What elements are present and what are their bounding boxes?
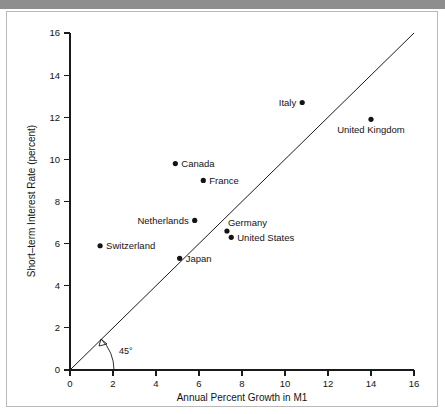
data-point: Canada: [173, 158, 216, 169]
data-point-dot: [229, 235, 234, 240]
data-point-label: Germany: [228, 217, 267, 228]
data-point-label: France: [209, 175, 239, 186]
data-point-dot: [192, 218, 197, 223]
data-point: Switzerland: [98, 240, 156, 251]
angle-label: 45°: [119, 346, 133, 356]
data-point-label: Italy: [279, 97, 297, 108]
x-tick-label: 10: [280, 378, 291, 389]
data-point-label: United States: [237, 232, 294, 243]
forty-five-degree-line: [70, 33, 414, 370]
angle-annotation: 45°: [99, 339, 133, 370]
y-tick-label: 16: [49, 27, 60, 38]
data-point-dot: [201, 178, 206, 183]
data-points: ItalyUnited KingdomCanadaFranceNetherlan…: [98, 97, 405, 264]
angle-arc: [101, 339, 114, 370]
data-point: Netherlands: [137, 215, 197, 226]
data-point-label: United Kingdom: [337, 124, 405, 135]
data-point-label: Japan: [186, 253, 212, 264]
x-tick-label: 8: [239, 378, 244, 389]
data-point-dot: [177, 256, 182, 261]
y-tick-label: 8: [55, 196, 60, 207]
y-tick-label: 4: [55, 280, 60, 291]
y-tick-label: 2: [55, 322, 60, 333]
y-tick-label: 14: [49, 70, 60, 81]
data-point: United Kingdom: [337, 117, 405, 136]
data-point-label: Netherlands: [137, 215, 188, 226]
x-tick-label: 6: [196, 378, 201, 389]
y-tick-label: 6: [55, 238, 60, 249]
x-tick-label: 0: [67, 378, 72, 389]
x-axis-ticks: 0246810121416: [67, 370, 419, 389]
data-point: United States: [229, 232, 295, 243]
scatter-chart: 0246810121416 0246810121416 45° ItalyUni…: [0, 9, 445, 414]
data-point: Italy: [279, 97, 305, 108]
data-point-label: Switzerland: [106, 240, 155, 251]
y-tick-label: 10: [49, 154, 60, 165]
y-tick-label: 12: [49, 112, 60, 123]
reference-line-45deg: [70, 33, 414, 370]
data-point-dot: [224, 228, 229, 233]
y-axis-ticks: 0246810121416: [49, 27, 70, 375]
x-tick-label: 2: [110, 378, 115, 389]
data-point-dot: [368, 117, 373, 122]
data-point: France: [201, 175, 239, 186]
y-tick-label: 0: [55, 364, 60, 375]
data-point-label: Canada: [181, 158, 215, 169]
y-axis-title: Short–term Interest Rate (percent): [26, 125, 37, 277]
x-tick-label: 4: [153, 378, 158, 389]
data-point-dot: [173, 161, 178, 166]
data-point: Japan: [177, 253, 211, 264]
data-point-dot: [300, 100, 305, 105]
x-axis-title: Annual Percent Growth in M1: [177, 392, 308, 403]
x-tick-label: 16: [409, 378, 420, 389]
top-decorative-band: [0, 0, 445, 9]
x-tick-label: 14: [366, 378, 377, 389]
data-point-dot: [98, 243, 103, 248]
x-tick-label: 12: [323, 378, 334, 389]
